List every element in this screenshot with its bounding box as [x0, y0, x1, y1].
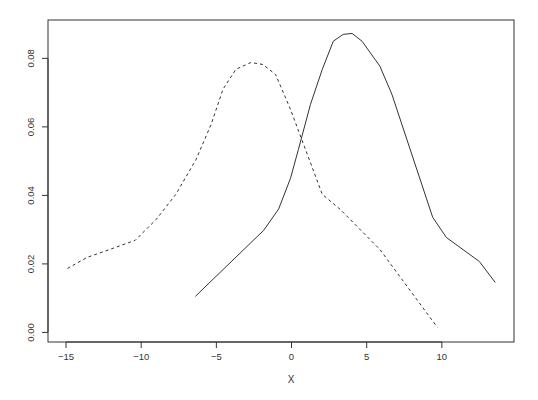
y-tick-label: 0.04 — [25, 186, 36, 205]
plot-frame — [48, 20, 514, 342]
x-tick-label: −15 — [58, 351, 74, 362]
x-tick-label: 5 — [364, 351, 369, 362]
y-tick-label: 0.00 — [25, 323, 36, 342]
series-layer — [68, 33, 496, 327]
series-line-solid — [195, 33, 495, 296]
x-tick-label: −5 — [211, 351, 222, 362]
x-axis: −15−10−50510 — [58, 342, 447, 362]
y-tick-label: 0.08 — [25, 49, 36, 68]
y-tick-label: 0.06 — [25, 118, 36, 136]
x-tick-label: 0 — [289, 351, 294, 362]
x-tick-label: −10 — [133, 351, 149, 362]
x-tick-label: 10 — [437, 351, 448, 362]
y-tick-label: 0.02 — [25, 255, 36, 274]
y-axis: 0.000.020.040.060.08 — [25, 49, 48, 342]
density-line-chart: −15−10−50510 0.000.020.040.060.08 X — [0, 0, 538, 400]
x-axis-title: X — [288, 374, 295, 385]
series-line-dashed — [68, 63, 438, 328]
